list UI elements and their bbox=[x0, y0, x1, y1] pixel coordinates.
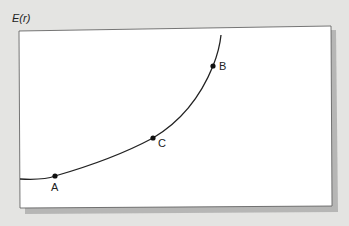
point-c-dot bbox=[150, 135, 155, 140]
diagram-canvas: A C B bbox=[0, 0, 349, 226]
point-a-dot bbox=[52, 173, 57, 178]
point-a-label: A bbox=[51, 181, 59, 193]
plot-card bbox=[19, 26, 332, 208]
point-c-label: C bbox=[158, 137, 166, 149]
point-b-dot bbox=[210, 63, 215, 68]
point-b-label: B bbox=[219, 60, 226, 72]
